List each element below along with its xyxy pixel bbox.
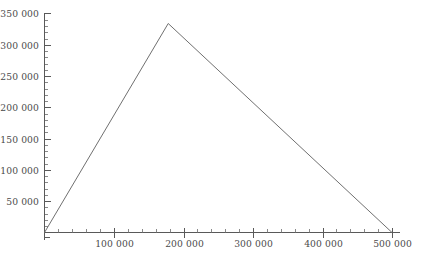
x-axis-tick-label: 200 000	[165, 238, 204, 249]
line-chart-plot: 50 000100 000150 000200 000250 000300 00…	[0, 0, 428, 259]
y-axis-tick-labels: 50 000100 000150 000200 000250 000300 00…	[0, 8, 39, 207]
y-axis-ticks	[45, 14, 51, 227]
y-axis-tick-label: 100 000	[0, 165, 39, 176]
y-axis-tick-label: 200 000	[0, 102, 39, 113]
y-axis-tick-label: 300 000	[0, 40, 39, 51]
x-axis-tick-label: 300 000	[234, 238, 273, 249]
chart-container: 50 000100 000150 000200 000250 000300 00…	[0, 0, 428, 259]
x-axis-tick-labels: 100 000200 000300 000400 000500 000	[95, 238, 412, 249]
x-axis-tick-label: 100 000	[95, 238, 134, 249]
x-axis-tick-label: 500 000	[373, 238, 412, 249]
x-axis-tick-label: 400 000	[304, 238, 343, 249]
y-axis-tick-label: 50 000	[6, 196, 39, 207]
y-axis-tick-label: 250 000	[0, 71, 39, 82]
data-series-group	[45, 24, 393, 233]
y-axis-tick-label: 150 000	[0, 134, 39, 145]
y-axis-tick-label: 350 000	[0, 8, 39, 19]
series-line	[45, 24, 393, 233]
